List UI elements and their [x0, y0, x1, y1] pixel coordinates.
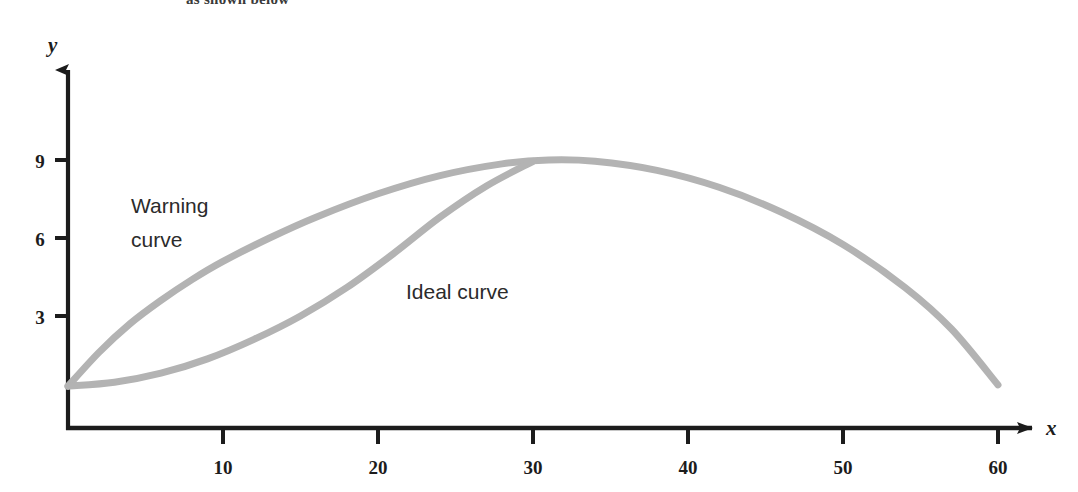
y-axis-label: y	[45, 33, 58, 57]
ideal-curve-label: Ideal curve	[406, 280, 509, 303]
graph-canvas: 369 102030405060 y x Warning curve Ideal…	[0, 0, 1078, 492]
y-tick-group: 369	[35, 151, 68, 328]
warning-curve-label-line1: Warning	[131, 194, 208, 217]
x-tick-label: 30	[524, 457, 543, 478]
x-tick-group: 102030405060	[214, 428, 1008, 478]
x-tick-label: 60	[989, 457, 1008, 478]
warning-curve-label-line2: curve	[131, 228, 182, 251]
x-tick-label: 40	[679, 457, 698, 478]
axes-group	[66, 70, 1032, 430]
x-axis-label: x	[1045, 416, 1057, 440]
y-tick-label: 3	[35, 307, 45, 328]
chart-page: as shown below 369 102030405060 y x Warn…	[0, 0, 1078, 492]
y-tick-label: 6	[35, 229, 45, 250]
x-tick-label: 50	[834, 457, 853, 478]
x-tick-label: 20	[369, 457, 388, 478]
y-tick-label: 9	[35, 151, 45, 172]
x-tick-label: 10	[214, 457, 233, 478]
